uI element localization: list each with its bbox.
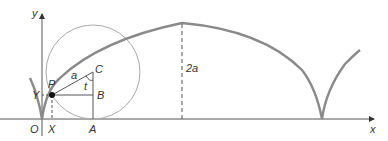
point-y-label: Y [32,89,40,101]
y-axis-label: y [31,7,39,19]
point-x-label: X [47,123,56,135]
cycloid-diagram: y x O X A Y P B C a t 2a [0,0,388,141]
point-p-label: P [48,78,56,90]
radius-label: a [71,69,77,81]
height-label: 2a [185,62,198,74]
angle-label: t [84,80,88,92]
point-p-marker [49,92,55,98]
point-b-label: B [97,89,104,101]
point-a-label: A [88,123,96,135]
point-c-label: C [95,63,103,75]
x-axis-label: x [369,123,376,135]
origin-label: O [30,123,39,135]
